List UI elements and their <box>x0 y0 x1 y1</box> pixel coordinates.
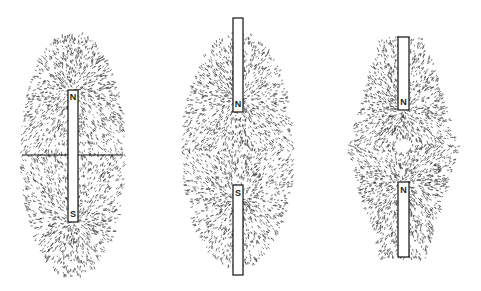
north-pole-label: N <box>398 185 410 195</box>
north-pole-label: N <box>67 92 79 102</box>
bar-magnet <box>233 185 243 275</box>
south-pole-label: S <box>232 188 244 198</box>
north-pole-label: N <box>232 99 244 109</box>
north-pole-label: N <box>398 97 410 107</box>
bar-magnet <box>233 18 243 112</box>
bar-magnet <box>68 90 78 222</box>
south-pole-label: S <box>67 209 79 219</box>
magnetic-field-diagram <box>0 0 481 291</box>
